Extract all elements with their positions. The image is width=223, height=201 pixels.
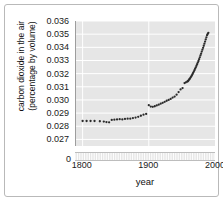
data-point	[168, 99, 170, 101]
data-point	[150, 105, 152, 107]
x-axis-tick-label: 1800	[62, 161, 102, 170]
data-point	[179, 88, 181, 90]
data-point	[175, 94, 177, 96]
chart-figure: 0 carbon dioxide in the air (percentage …	[0, 0, 223, 201]
data-point	[93, 120, 95, 122]
plot-region	[75, 21, 215, 146]
data-point	[85, 120, 87, 122]
axis-break-hatch-icon	[75, 153, 215, 160]
data-point	[177, 91, 179, 93]
data-point	[164, 101, 166, 103]
data-point	[81, 120, 83, 122]
data-point	[142, 114, 144, 116]
data-point	[156, 104, 158, 106]
y-axis-tick-label: 0.028	[5, 122, 69, 131]
data-point	[105, 121, 107, 123]
y-axis-tick-label: 0.032	[5, 70, 69, 79]
data-point	[116, 118, 118, 120]
data-point	[170, 98, 172, 100]
data-point	[129, 117, 131, 119]
data-point	[160, 102, 162, 104]
data-point	[89, 120, 91, 122]
x-axis-tick-label: 1900	[128, 161, 168, 170]
y-axis-tick-label: 0.029	[5, 109, 69, 118]
y-axis-tick-label: 0.036	[5, 17, 69, 26]
data-point	[204, 40, 206, 42]
data-point	[148, 104, 150, 106]
data-point	[111, 119, 113, 121]
data-point	[207, 32, 209, 34]
x-axis-title: year	[75, 176, 215, 187]
x-axis-tick-label: 2000	[195, 161, 223, 170]
y-axis-tick-label: 0.035	[5, 30, 69, 39]
plot-area	[75, 21, 215, 146]
data-point	[134, 116, 136, 118]
data-point	[181, 87, 183, 89]
data-point	[145, 113, 147, 115]
data-point	[173, 95, 175, 97]
y-axis-tick-label: 0.027	[5, 135, 69, 144]
data-point	[119, 118, 121, 120]
data-point	[103, 120, 105, 122]
data-points-layer	[76, 21, 215, 146]
y-axis-tick-label: 0.034	[5, 43, 69, 52]
data-point	[154, 105, 156, 107]
data-point	[140, 115, 142, 117]
data-point	[121, 118, 123, 120]
data-point	[166, 100, 168, 102]
data-point	[99, 120, 101, 122]
data-point	[202, 47, 204, 49]
y-axis-tick-label: 0.031	[5, 83, 69, 92]
data-point	[162, 102, 164, 104]
chart-frame: 0 carbon dioxide in the air (percentage …	[4, 4, 219, 197]
data-point	[124, 118, 126, 120]
y-axis-tick-label: 0.033	[5, 56, 69, 65]
data-point	[203, 42, 205, 44]
data-point	[205, 36, 207, 38]
y-axis-tick-label: 0.030	[5, 96, 69, 105]
data-point	[137, 116, 139, 118]
data-point	[152, 106, 154, 108]
data-point	[171, 96, 173, 98]
data-point	[200, 52, 202, 54]
data-point	[126, 117, 128, 119]
data-point	[108, 121, 110, 123]
data-point	[132, 117, 134, 119]
data-point	[113, 119, 115, 121]
data-point	[158, 104, 160, 106]
data-point	[203, 45, 205, 47]
data-point	[205, 38, 207, 40]
